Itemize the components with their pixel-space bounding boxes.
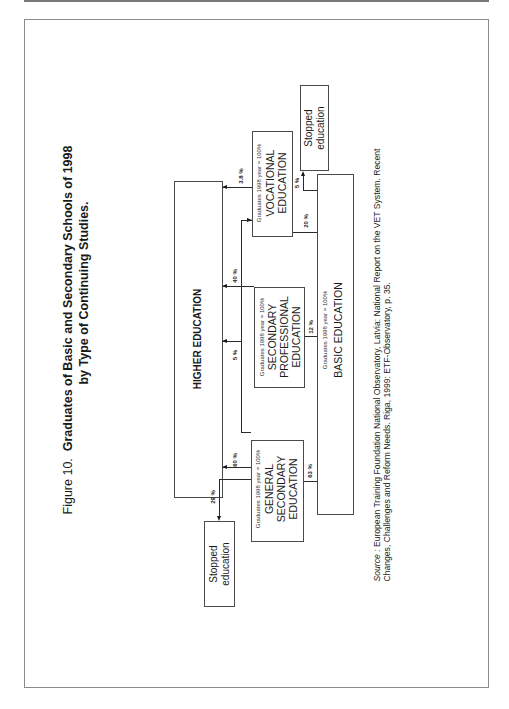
arrow-gs-he [222,465,227,469]
connector-be-stop-v [303,175,304,190]
flow-label-3-8: 3.8 % [238,168,245,183]
figure-number: Figure 10. [61,458,75,514]
arrow-sp-he [222,284,227,288]
figure-title: Graduates of Basic and Secondary Schools… [61,146,75,452]
connector-be-stop-h [303,190,317,191]
flow-label-63: 63 % [307,464,314,478]
arrow-be-stop [301,171,305,176]
figure-title-line1: Figure 10. Graduates of Basic and Second… [61,146,75,515]
basic-education-note: Graduates 1998 year = 100% [322,291,329,370]
connector-be-gs [304,481,317,482]
flow-label-40: 40 % [232,269,239,283]
connector-be-voc [293,232,317,233]
vocational-note: Graduates 1998 year = 100% [256,144,263,223]
source-prefix: Source : [372,549,382,581]
source-line2: Changes, Challenges and Reform Needs. Ri… [382,149,392,582]
connector-sp-he [223,286,254,287]
general-secondary-note: Graduates 1998 year = 100% [255,450,262,529]
arrow-gs-stop [217,516,221,521]
source-line1: European Training Foundation National Ob… [372,149,382,550]
secondary-professional-label: SECONDARY PROFESSIONAL EDUCATION [267,296,302,378]
secondary-professional-note: Graduates 1998 year = 100% [259,298,266,377]
flow-label-29: 29 % [210,490,217,504]
general-secondary-label: GENERAL SECONDARY EDUCATION [264,456,299,522]
page-top-rule [24,0,489,2]
source-citation: Source : European Training Foundation Na… [372,149,393,582]
flow-label-5-he: 5 % [232,350,239,360]
connector-gs-he [223,467,251,468]
stopped-education-label-2: Stopped education [303,106,326,149]
connector-be-he-v [241,220,242,432]
higher-education-label: HIGHER EDUCATION [192,289,204,389]
flow-label-12: 12 % [308,320,315,334]
stopped-education-label-1: Stopped education [208,542,231,585]
connector-gs-stop-v [219,479,220,517]
figure-title-line2: by Type of Continuing Studies. [77,201,91,384]
connector-voc-he [223,187,252,188]
arrow-be-he [222,339,227,343]
connector-be-he-h1 [241,432,251,433]
flow-label-60: 60 % [232,453,239,467]
basic-education-label: BASIC EDUCATION [333,282,345,377]
connector-gs-stop-h [219,479,251,480]
arrow-voc-he [222,185,227,189]
connector-be-sp [305,336,317,337]
flow-label-20: 20 % [303,214,310,228]
flow-label-5-stop: 5 % [294,178,301,188]
vocational-label: VOCATIONAL EDUCATION [265,150,289,217]
arrow-be-voc [247,218,252,222]
